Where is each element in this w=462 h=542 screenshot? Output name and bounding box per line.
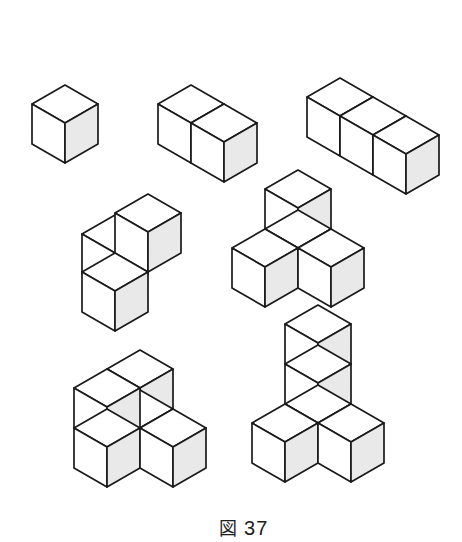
three-cube-row <box>307 78 439 194</box>
cube <box>32 85 98 163</box>
cross-four-cube <box>232 170 364 307</box>
figure-caption-label: 図 <box>219 518 238 539</box>
two-cube-row <box>158 85 257 182</box>
staircase-five-cube <box>252 305 384 482</box>
figure-caption-number: 37 <box>244 517 268 539</box>
figure-sheet: 図 37 <box>0 0 462 542</box>
zigzag-four-cube <box>74 350 206 487</box>
single-cube <box>32 85 98 163</box>
tripod-three-cube <box>82 194 181 331</box>
figure-caption: 図 37 <box>0 492 462 542</box>
isometric-cube-figures <box>0 0 462 542</box>
